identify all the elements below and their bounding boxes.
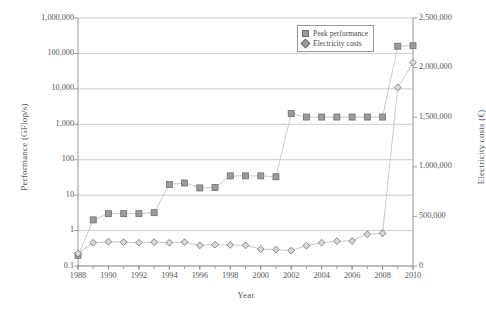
data-point xyxy=(303,114,309,120)
y-axis-left-tick: 1,000 xyxy=(34,119,74,128)
data-point xyxy=(212,184,218,190)
data-point xyxy=(90,239,97,246)
data-point xyxy=(120,239,127,246)
y-axis-left-tick: 0.1 xyxy=(34,261,74,270)
data-point xyxy=(136,239,143,246)
data-point xyxy=(212,241,219,248)
legend-label: Electricity costs xyxy=(313,39,362,49)
data-point xyxy=(380,114,386,120)
y-axis-right-tick: 2,500,000 xyxy=(419,13,479,22)
y-axis-right-tick: 1,500,000 xyxy=(419,112,479,121)
data-point xyxy=(182,180,188,186)
data-point xyxy=(364,231,371,238)
data-point xyxy=(166,181,172,187)
data-point xyxy=(273,174,279,180)
legend-item-peak-performance: Peak performance xyxy=(302,29,368,39)
y-axis-right-tick: 0 xyxy=(419,261,479,270)
data-point xyxy=(288,247,295,254)
data-point xyxy=(318,239,325,246)
data-point xyxy=(197,185,203,191)
y-axis-right-tick: 500,000 xyxy=(419,211,479,220)
y-axis-left-tick: 100,000 xyxy=(34,48,74,57)
data-point xyxy=(319,114,325,120)
data-point xyxy=(121,211,127,217)
data-point xyxy=(243,173,249,179)
data-point xyxy=(136,211,142,217)
data-point xyxy=(410,59,417,66)
diamond-marker-icon xyxy=(301,38,311,48)
data-point xyxy=(258,173,264,179)
data-point xyxy=(227,173,233,179)
y-axis-right-tick: 1,000,000 xyxy=(419,161,479,170)
data-point xyxy=(410,43,416,49)
data-point xyxy=(333,238,340,245)
chart-legend: Peak performance Electricity costs xyxy=(297,25,374,52)
y-axis-left-tick: 100 xyxy=(34,154,74,163)
data-point xyxy=(166,239,173,246)
y-axis-left-tick: 10 xyxy=(34,190,74,199)
data-point xyxy=(90,217,96,223)
data-point xyxy=(349,238,356,245)
data-point xyxy=(242,242,249,249)
y-axis-left-tick: 1,000,000 xyxy=(34,13,74,22)
data-point xyxy=(105,211,111,217)
y-axis-left-tick: 1 xyxy=(34,225,74,234)
data-point xyxy=(105,238,112,245)
data-point xyxy=(395,43,401,49)
data-point xyxy=(288,111,294,117)
data-point xyxy=(257,246,264,253)
data-point xyxy=(151,239,158,246)
legend-item-electricity-costs: Electricity costs xyxy=(302,39,368,49)
data-point xyxy=(349,114,355,120)
data-point xyxy=(273,246,280,253)
y-axis-right-tick: 2,000,000 xyxy=(419,62,479,71)
square-marker-icon xyxy=(302,30,309,37)
data-point xyxy=(196,242,203,249)
y-axis-left-tick: 10,000 xyxy=(34,83,74,92)
data-point xyxy=(334,114,340,120)
data-point xyxy=(227,242,234,249)
data-point xyxy=(181,239,188,246)
data-point xyxy=(364,114,370,120)
data-point xyxy=(303,242,310,249)
legend-label: Peak performance xyxy=(313,29,368,39)
data-point xyxy=(394,84,401,91)
data-point xyxy=(151,210,157,216)
x-axis-tick: 2010 xyxy=(393,271,433,280)
